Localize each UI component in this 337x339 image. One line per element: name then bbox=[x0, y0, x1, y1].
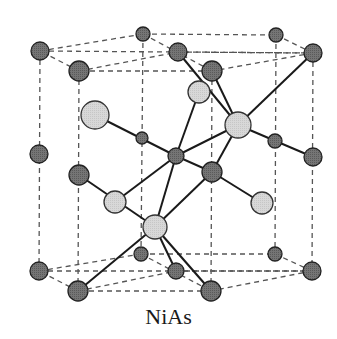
ni-atom bbox=[169, 43, 187, 61]
ni-atom bbox=[30, 145, 48, 163]
niAs-crystal-structure bbox=[0, 0, 337, 339]
ni-atom bbox=[268, 247, 282, 261]
ni-atom bbox=[69, 61, 89, 81]
ni-atom bbox=[304, 148, 322, 166]
ni-atom bbox=[168, 263, 184, 279]
figure-caption: NiAs bbox=[0, 304, 337, 330]
as-atom bbox=[225, 112, 251, 138]
ni-atom bbox=[136, 132, 148, 144]
ni-atom bbox=[31, 42, 49, 60]
ni-atom bbox=[202, 61, 222, 81]
as-atom bbox=[188, 81, 210, 103]
as-atom bbox=[104, 191, 126, 213]
ni-atom bbox=[269, 28, 283, 42]
ni-atom bbox=[69, 165, 89, 185]
ni-atom bbox=[303, 262, 321, 280]
ni-atom bbox=[134, 247, 148, 261]
as-atom bbox=[81, 101, 109, 129]
ni-atom bbox=[30, 262, 48, 280]
as-atom bbox=[143, 215, 167, 239]
ni-atom bbox=[136, 27, 150, 41]
atoms bbox=[30, 27, 322, 301]
ni-atom bbox=[68, 281, 88, 301]
ni-atom bbox=[268, 134, 282, 148]
ni-atom bbox=[202, 162, 222, 182]
ni-atom bbox=[201, 281, 221, 301]
as-atom bbox=[251, 192, 273, 214]
ni-atom bbox=[304, 44, 322, 62]
ni-atom bbox=[168, 148, 184, 164]
